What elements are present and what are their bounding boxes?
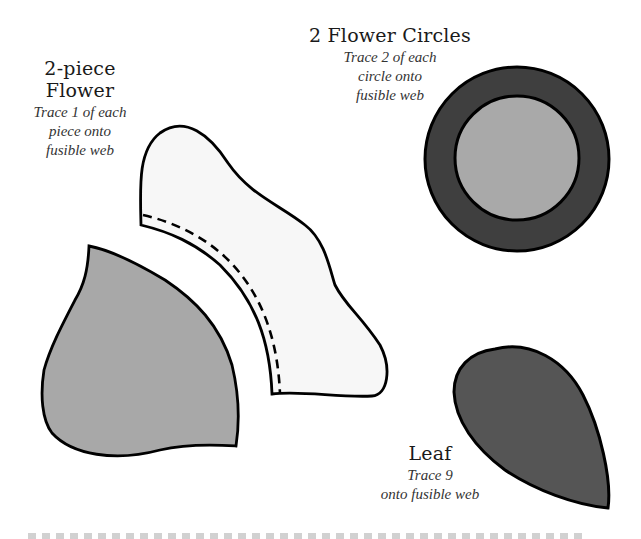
cropped-bottom-edge bbox=[28, 533, 588, 539]
flower-circles bbox=[425, 67, 609, 251]
circle-inner bbox=[455, 96, 579, 220]
flower-bottom-outline bbox=[42, 246, 238, 456]
pattern-artwork bbox=[0, 0, 641, 539]
leaf-shape bbox=[454, 347, 609, 508]
leaf-outline bbox=[454, 347, 609, 508]
flower-bottom-piece bbox=[42, 246, 238, 456]
